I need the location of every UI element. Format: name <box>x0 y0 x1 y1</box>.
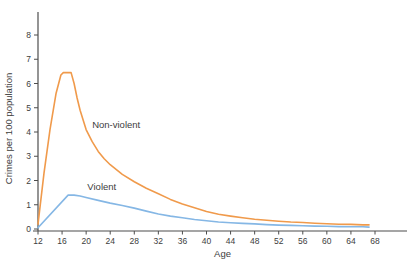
y-tick-label: 1 <box>26 200 31 210</box>
series-label-violent: Violent <box>87 181 116 192</box>
y-tick-label: 3 <box>26 151 31 161</box>
y-tick-label: 8 <box>26 30 31 40</box>
y-tick-label: 0 <box>26 224 31 234</box>
x-tick-label: 52 <box>274 236 284 246</box>
x-tick-label: 40 <box>202 236 212 246</box>
x-tick-label: 36 <box>178 236 188 246</box>
y-tick-label: 6 <box>26 79 31 89</box>
y-axis-title: Crimes per 100 population <box>3 73 14 184</box>
chart-canvas: 121620242832364044485256606468012345678A… <box>0 0 410 277</box>
crime-age-line-chart: 121620242832364044485256606468012345678A… <box>0 0 410 277</box>
y-tick-label: 5 <box>26 103 31 113</box>
x-tick-label: 44 <box>226 236 236 246</box>
x-tick-label: 60 <box>322 236 332 246</box>
series-line-non-violent <box>38 73 369 225</box>
x-tick-label: 68 <box>370 236 380 246</box>
x-tick-label: 28 <box>130 236 140 246</box>
y-tick-label: 7 <box>26 54 31 64</box>
x-tick-label: 12 <box>33 236 43 246</box>
x-tick-label: 24 <box>105 236 115 246</box>
x-tick-label: 64 <box>346 236 356 246</box>
x-axis-title: Age <box>214 248 231 259</box>
y-tick-label: 4 <box>26 127 31 137</box>
x-tick-label: 32 <box>154 236 164 246</box>
x-tick-label: 48 <box>250 236 260 246</box>
x-tick-label: 16 <box>57 236 67 246</box>
x-tick-label: 20 <box>81 236 91 246</box>
series-label-non-violent: Non-violent <box>92 119 140 130</box>
y-tick-label: 2 <box>26 176 31 186</box>
x-tick-label: 56 <box>298 236 308 246</box>
